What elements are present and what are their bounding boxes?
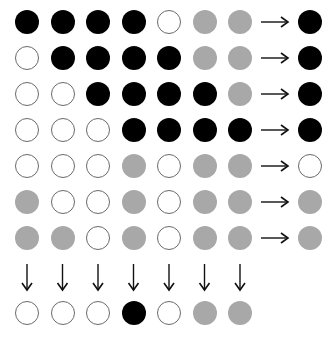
circle-grid-diagram <box>0 0 335 343</box>
down-arrow-icon <box>0 0 335 343</box>
column-result-7-grey-circle <box>228 301 252 325</box>
